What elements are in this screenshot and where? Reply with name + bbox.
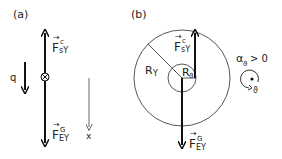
svg-text:EY: EY [59, 134, 69, 143]
force-down-label: F → G EY [52, 120, 69, 143]
force-down-label-b: F → G EY [189, 129, 206, 152]
panel-b-label: (b) [131, 8, 147, 21]
panel-a: (a) F → c sY F → G EY q x [10, 8, 92, 143]
svg-text:> 0: > 0 [250, 53, 268, 64]
svg-text:F: F [174, 40, 181, 54]
svg-text:ϑ: ϑ [243, 60, 247, 68]
panel-a-label: (a) [13, 8, 28, 21]
svg-text:F: F [52, 128, 59, 142]
rotation-direction-icon: ϑ [241, 70, 259, 95]
axis-into-page-icon [41, 73, 49, 81]
panel-b: (b) F → c sY R Y R ϑ F → G EY α ϑ [131, 8, 268, 152]
angular-acceleration-label: α ϑ > 0 [236, 52, 268, 68]
svg-text:Y: Y [152, 69, 158, 78]
rotation-label: ϑ [253, 86, 258, 95]
svg-text:F: F [189, 137, 196, 151]
svg-text:G: G [60, 126, 65, 134]
force-up-label-b: F → c sY [174, 32, 190, 54]
q-label: q [10, 72, 16, 83]
svg-text:G: G [197, 135, 202, 143]
svg-text:ϑ: ϑ [189, 72, 193, 80]
outer-radius-label: R Y [145, 64, 158, 78]
svg-text:→: → [190, 129, 197, 138]
svg-text:sY: sY [59, 46, 68, 55]
svg-text:F: F [52, 41, 59, 55]
x-label: x [86, 131, 92, 141]
svg-text:EY: EY [196, 143, 206, 152]
diagram-canvas: (a) F → c sY F → G EY q x (b) [0, 0, 282, 159]
svg-text:→: → [175, 32, 182, 41]
svg-text:c: c [60, 38, 64, 46]
force-up-label: F → c sY [52, 33, 68, 55]
svg-text:sY: sY [181, 45, 190, 54]
svg-text:c: c [182, 37, 186, 45]
svg-text:→: → [53, 120, 60, 129]
svg-text:→: → [53, 33, 60, 42]
svg-text:R: R [145, 64, 153, 77]
